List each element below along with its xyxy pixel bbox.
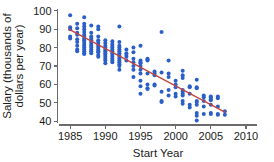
data-point <box>188 106 192 110</box>
data-point <box>131 50 135 54</box>
data-point <box>68 36 72 40</box>
y-tick-label: 100 <box>33 5 51 17</box>
data-point <box>138 92 142 96</box>
data-point <box>75 44 79 48</box>
data-point <box>202 112 206 116</box>
data-point <box>174 94 178 98</box>
data-point <box>195 86 199 90</box>
x-tick-label: 2010 <box>234 130 258 142</box>
data-point <box>216 113 220 117</box>
y-tick-label: 70 <box>39 60 51 72</box>
data-point <box>160 70 164 74</box>
x-tick-label: 1985 <box>58 130 82 142</box>
data-point <box>181 76 185 80</box>
trendline-group <box>69 29 225 112</box>
data-point <box>124 47 128 51</box>
data-point <box>131 57 135 61</box>
data-point <box>167 75 171 79</box>
data-point <box>181 69 185 73</box>
y-tick-label: 50 <box>39 97 51 109</box>
data-point <box>202 95 206 99</box>
data-point <box>75 26 79 30</box>
data-point <box>117 40 121 44</box>
regression-trendline <box>69 29 225 112</box>
data-point <box>153 83 157 87</box>
data-point <box>167 71 171 75</box>
data-point <box>96 55 100 59</box>
data-point <box>117 64 121 68</box>
y-tick-label: 60 <box>39 78 51 90</box>
data-point <box>160 100 164 104</box>
data-point <box>124 55 128 59</box>
data-point <box>181 102 185 106</box>
data-points-group <box>68 13 227 122</box>
y-tick-label: 90 <box>39 23 51 35</box>
data-point <box>103 61 107 65</box>
data-point <box>117 24 121 28</box>
y-axis-title-line: dollars per year) <box>14 24 26 107</box>
data-point <box>146 82 150 86</box>
data-point <box>75 49 79 53</box>
data-point <box>96 35 100 39</box>
x-tick-label: 1990 <box>93 130 117 142</box>
data-point <box>195 78 199 82</box>
x-tick-label: 1995 <box>128 130 152 142</box>
data-point <box>160 30 164 34</box>
data-point <box>209 98 213 102</box>
data-point <box>82 52 86 56</box>
y-axis-title-line: Salary (thousands of <box>1 13 13 119</box>
data-point <box>117 68 121 72</box>
data-point <box>167 88 171 92</box>
data-point <box>160 90 164 94</box>
data-point <box>174 79 178 83</box>
data-point <box>223 113 227 117</box>
data-point <box>82 15 86 19</box>
data-point <box>146 87 150 91</box>
data-point <box>89 51 93 55</box>
data-point <box>202 105 206 109</box>
data-point <box>75 40 79 44</box>
scatter-plot-figure: 405060708090100198519901995200020052010 … <box>0 0 274 162</box>
data-point <box>195 118 199 122</box>
data-point <box>167 94 171 98</box>
data-point <box>89 24 93 28</box>
x-tick-label: 2005 <box>199 130 223 142</box>
x-axis-title: Start Year <box>133 147 184 159</box>
data-point <box>138 44 142 48</box>
data-point <box>209 112 213 116</box>
data-point <box>188 85 192 89</box>
data-point <box>96 27 100 31</box>
y-tick-label: 40 <box>39 115 51 127</box>
data-point <box>146 59 150 63</box>
data-point <box>138 71 142 75</box>
data-point <box>75 22 79 26</box>
data-point <box>167 59 171 63</box>
data-point <box>89 31 93 35</box>
data-point <box>216 96 220 100</box>
data-point <box>138 79 142 83</box>
data-point <box>138 84 142 88</box>
y-tick-label: 80 <box>39 42 51 54</box>
data-point <box>131 68 135 72</box>
data-point <box>195 114 199 118</box>
data-point <box>195 103 199 107</box>
data-point <box>68 13 72 17</box>
x-tick-label: 2000 <box>163 130 187 142</box>
plot-canvas: 405060708090100198519901995200020052010 … <box>0 0 274 162</box>
data-point <box>181 94 185 98</box>
data-point <box>110 60 114 64</box>
data-point <box>131 46 135 50</box>
data-point <box>131 75 135 79</box>
